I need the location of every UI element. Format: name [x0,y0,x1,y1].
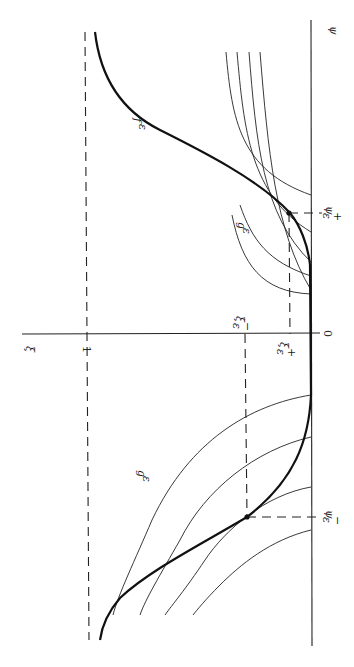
xi-axis [22,333,320,334]
xi-plus-dashed-vertical [289,213,290,334]
svg-text:ε: ε [274,349,287,355]
xi-plus-label: ξ + ε [274,342,298,357]
xi-minus-dashed-vertical [245,334,247,517]
g-lower-curve-4 [193,530,311,615]
g-lower-curve-1 [113,395,311,615]
psi-plus-point [286,210,291,215]
svg-text:1: 1 [80,346,93,353]
svg-text:0: 0 [321,330,334,337]
psi-plus-label: ψ + ε [320,206,344,221]
g-lower-label: g ε [135,470,153,482]
level-one-label: 1 [80,346,93,353]
psi-axis-label: ψ [327,26,340,35]
psi-minus-point [244,514,249,519]
xi-one-dashed-line [85,32,89,640]
g-upper-label: g ε [235,222,253,234]
g-lower-curve-2 [140,437,311,615]
origin-label: 0 [321,330,334,337]
svg-text:ψ: ψ [327,26,340,35]
svg-text:ε: ε [240,228,253,234]
svg-text:f: f [131,117,144,124]
psi-minus-label: ψ − ε [320,510,344,525]
svg-text:ξ: ξ [23,346,36,353]
svg-text:ε: ε [230,323,243,329]
f-curve [95,32,311,640]
xi-axis-label: ξ [23,346,36,353]
xi-minus-label: ξ − ε [230,316,254,331]
phase-diagram: ψ ξ 1 0 f ε g ε g ε ψ + ε ψ − ε ξ + ε ξ … [0,0,354,667]
f-curve-label: f ε [131,117,149,130]
svg-text:ε: ε [136,124,149,130]
diagram-stage: ψ ξ 1 0 f ε g ε g ε ψ + ε ψ − ε ξ + ε ξ … [0,0,354,667]
svg-text:ε: ε [140,476,153,482]
svg-text:ε: ε [320,213,333,219]
svg-text:ε: ε [320,517,333,523]
